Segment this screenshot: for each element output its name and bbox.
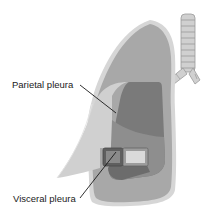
label-visceral-pleura: Visceral pleura: [13, 193, 76, 204]
pleura-cutaway-box: [103, 148, 148, 166]
lung-illustration: [0, 0, 213, 216]
label-parietal-pleura: Parietal pleura: [12, 79, 73, 90]
trachea-icon: [171, 14, 200, 84]
lung-pleura-diagram: Parietal pleura Visceral pleura: [0, 0, 213, 216]
